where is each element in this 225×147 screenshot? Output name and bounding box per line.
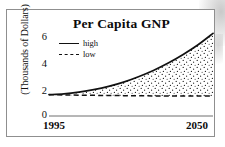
plot-area: Per Capita GNP (Thousands of Dollars) 6 … bbox=[7, 10, 214, 136]
chart-figure: Per Capita GNP (Thousands of Dollars) 6 … bbox=[6, 9, 215, 137]
fill-between-band bbox=[49, 33, 213, 96]
chart-plot-svg bbox=[7, 10, 214, 136]
